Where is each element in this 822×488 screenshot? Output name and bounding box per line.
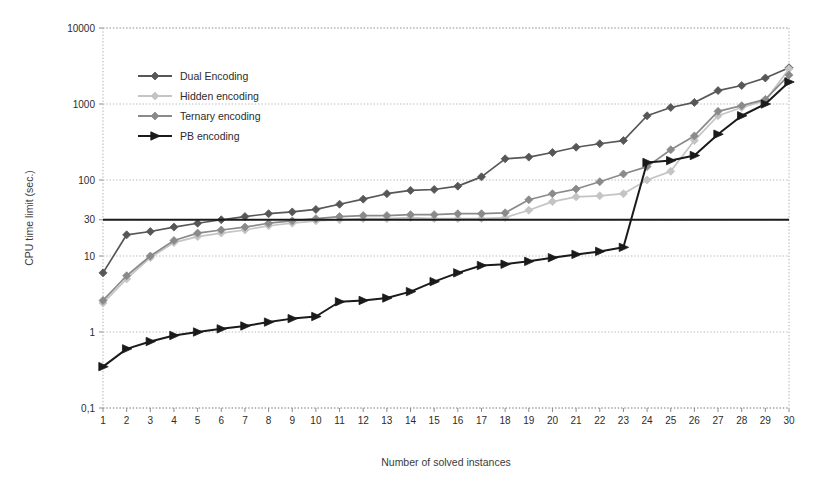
data-point-marker [477, 210, 485, 218]
data-point-marker [548, 190, 556, 198]
series-line [103, 82, 789, 367]
x-axis-tick-label: 3 [148, 415, 154, 426]
data-point-marker [99, 269, 107, 277]
data-point-marker [548, 149, 556, 157]
data-point-marker [572, 250, 581, 258]
data-point-marker [619, 170, 627, 178]
data-point-marker [406, 287, 415, 295]
data-point-marker [217, 325, 226, 333]
data-point-marker [151, 112, 159, 120]
x-axis-tick-label: 8 [266, 415, 272, 426]
data-point-marker [596, 178, 604, 186]
data-point-marker [619, 190, 627, 198]
data-point-marker [572, 193, 580, 201]
x-axis-tick-label: 23 [618, 415, 630, 426]
legend-item: PB encoding [138, 130, 240, 142]
x-axis-tick-label: 21 [571, 415, 583, 426]
data-point-marker [312, 205, 320, 213]
data-point-marker [288, 208, 296, 216]
data-point-marker [170, 223, 178, 231]
data-point-marker [548, 198, 556, 206]
data-point-marker [265, 210, 273, 218]
data-point-marker [407, 186, 415, 194]
legend-item: Hidden encoding [138, 90, 259, 102]
data-point-marker [359, 296, 368, 304]
y-axis-tick-label: 100 [78, 175, 95, 186]
data-point-marker [241, 322, 250, 330]
data-point-marker [596, 140, 604, 148]
data-point-marker [596, 192, 604, 200]
data-point-marker [596, 247, 605, 255]
x-axis-tick-label: 7 [242, 415, 248, 426]
data-point-marker [501, 260, 510, 268]
x-axis-tick-label: 30 [783, 415, 795, 426]
legend-label: Dual Encoding [180, 70, 248, 82]
x-axis-tick-label: 16 [452, 415, 464, 426]
legend-item: Dual Encoding [138, 70, 248, 82]
data-point-marker [170, 331, 179, 339]
x-axis-tick-label: 9 [289, 415, 295, 426]
x-axis-tick-label: 5 [195, 415, 201, 426]
data-point-marker [359, 195, 367, 203]
legend-label: Ternary encoding [180, 110, 261, 122]
data-point-marker [454, 182, 462, 190]
data-point-marker [123, 231, 131, 239]
legend-item: Ternary encoding [138, 110, 261, 122]
x-axis-tick-label: 22 [594, 415, 606, 426]
x-axis-tick-label: 28 [736, 415, 748, 426]
data-point-marker [264, 318, 273, 326]
data-point-marker [454, 269, 463, 277]
data-point-marker [525, 257, 534, 265]
data-point-marker [288, 314, 297, 322]
y-axis-tick-label: 10 [84, 251, 96, 262]
x-axis-tick-label: 17 [476, 415, 488, 426]
data-point-marker [146, 228, 154, 236]
y-axis-tick-label: 1 [89, 327, 95, 338]
data-point-marker [430, 277, 439, 285]
data-point-marker [335, 298, 344, 306]
x-axis-tick-label: 24 [642, 415, 654, 426]
x-axis-tick-label: 26 [689, 415, 701, 426]
data-point-marker [548, 253, 557, 261]
legend-label: PB encoding [180, 130, 240, 142]
x-axis-tick-label: 11 [334, 415, 345, 426]
data-point-marker [501, 209, 509, 217]
x-axis-tick-label: 10 [310, 415, 322, 426]
x-axis-tick-label: 18 [500, 415, 512, 426]
x-axis-tick-label: 19 [523, 415, 535, 426]
x-axis-tick-label: 13 [381, 415, 393, 426]
data-point-marker [383, 294, 392, 302]
data-point-marker [525, 153, 533, 161]
chart-legend: Dual EncodingHidden encodingTernary enco… [138, 70, 261, 142]
data-point-marker [761, 74, 769, 82]
data-point-marker [667, 156, 676, 164]
x-axis-tick-label: 4 [171, 415, 177, 426]
x-axis-tick-label: 2 [124, 415, 130, 426]
x-axis-tick-label: 14 [405, 415, 417, 426]
y-axis-tick-label: 1000 [73, 99, 96, 110]
y-axis-tick-label: 10000 [67, 23, 95, 34]
data-point-marker [336, 200, 344, 208]
data-point-marker [383, 190, 391, 198]
data-point-marker [643, 176, 651, 184]
data-point-marker [738, 82, 746, 90]
data-point-marker [193, 328, 202, 336]
x-axis-tick-label: 15 [429, 415, 441, 426]
data-point-marker [122, 345, 131, 353]
data-point-marker [430, 185, 438, 193]
data-point-marker [714, 87, 722, 95]
x-axis-title: Number of solved instances [381, 456, 511, 468]
data-point-marker [151, 92, 159, 100]
x-axis-tick-label: 27 [712, 415, 724, 426]
x-axis-tick-label: 1 [100, 415, 106, 426]
x-axis-tick-label: 12 [358, 415, 370, 426]
data-point-marker [151, 72, 159, 80]
cpu-time-line-chart: 100001000100301010,112345678910111213141… [0, 0, 822, 488]
data-point-marker [667, 103, 675, 111]
y-axis-title: CPU time limit (sec.) [23, 170, 35, 266]
data-point-marker [454, 210, 462, 218]
data-point-marker [151, 132, 160, 140]
x-axis-tick-label: 25 [665, 415, 677, 426]
x-axis-tick-label: 29 [760, 415, 772, 426]
legend-label: Hidden encoding [180, 90, 259, 102]
